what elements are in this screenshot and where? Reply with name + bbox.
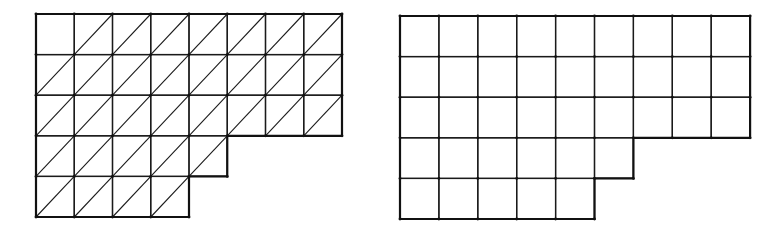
mesh-node [111,94,114,97]
triangle-diagonal [74,95,112,136]
mesh-node [111,134,114,137]
triangle-diagonal [304,55,342,96]
mesh-node [188,53,191,56]
triangle-diagonal [113,14,151,55]
mesh-node [188,175,191,178]
mesh-node [399,218,402,221]
triangle-diagonal [227,95,265,136]
mesh-node [554,96,557,99]
mesh-node [632,136,635,139]
mesh-node [515,136,518,139]
mesh-node [671,15,674,18]
mesh-node [632,177,635,180]
mesh-node [226,134,229,137]
mesh-node [749,96,752,99]
mesh-node [149,13,152,16]
mesh-node [188,134,191,137]
mesh-node [671,55,674,58]
triangle-diagonal [74,14,112,55]
mesh-cell [517,178,556,219]
mesh-node [554,136,557,139]
mesh-node [111,53,114,56]
mesh-cell [556,138,595,179]
triangle-diagonal [151,95,189,136]
triangle-diagonal [74,136,112,177]
mesh-cell [517,138,556,179]
mesh-node [476,55,479,58]
mesh-node [73,94,76,97]
mesh-node [438,218,441,221]
mesh-cell [517,97,556,138]
mesh-cell [439,138,478,179]
mesh-node [73,13,76,16]
triangle-diagonal [113,136,151,177]
mesh-cell [478,138,517,179]
triangle-diagonal [304,14,342,55]
mesh-node [554,55,557,58]
mesh-node [438,136,441,139]
mesh-cell [478,97,517,138]
triangle-diagonal [189,14,227,55]
triangle-diagonal [36,136,74,177]
mesh-node [632,55,635,58]
mesh-node [515,177,518,180]
mesh-node [73,175,76,178]
mesh-node [264,134,267,137]
triangle-diagonal [36,55,74,96]
mesh-cell [478,178,517,219]
triangle-diagonal [113,176,151,217]
mesh-node [226,175,229,178]
mesh-node [149,175,152,178]
mesh-node [399,136,402,139]
mesh-node [264,53,267,56]
triangle-diagonal [151,136,189,177]
mesh-cell [672,16,711,57]
mesh-node [593,218,596,221]
mesh-cell [633,16,672,57]
mesh-cell [439,16,478,57]
mesh-node [554,15,557,18]
mesh-node [399,15,402,18]
mesh-node [73,53,76,56]
domain-boundary [400,16,750,219]
mesh-cell [400,138,439,179]
triangle-diagonal [189,136,227,177]
mesh-node [341,94,344,97]
mesh-node [73,216,76,219]
mesh-cell [711,57,750,98]
mesh-node [554,218,557,221]
mesh-node [111,216,114,219]
mesh-node [35,13,38,16]
mesh-cell [556,178,595,219]
mesh-node [226,94,229,97]
mesh-node [35,134,38,137]
mesh-node [710,15,713,18]
mesh-node [710,96,713,99]
mesh-node [264,13,267,16]
mesh-cell [711,16,750,57]
mesh-cell [595,16,634,57]
mesh-cell [517,57,556,98]
triangle-diagonal [36,95,74,136]
mesh-node [302,53,305,56]
mesh-cell [711,97,750,138]
mesh-node [515,15,518,18]
mesh-node [476,96,479,99]
mesh-cell [400,178,439,219]
mesh-node [302,94,305,97]
triangle-diagonal [74,55,112,96]
mesh-cell [439,178,478,219]
triangle-diagonal [304,95,342,136]
triangle-diagonal [151,14,189,55]
mesh-node [671,96,674,99]
mesh-node [632,15,635,18]
mesh-node [188,94,191,97]
mesh-node [749,55,752,58]
mesh-node [149,216,152,219]
triangle-diagonal [227,14,265,55]
mesh-node [35,175,38,178]
mesh-cell [556,97,595,138]
mesh-node [476,15,479,18]
mesh-node [476,218,479,221]
mesh-node [149,53,152,56]
